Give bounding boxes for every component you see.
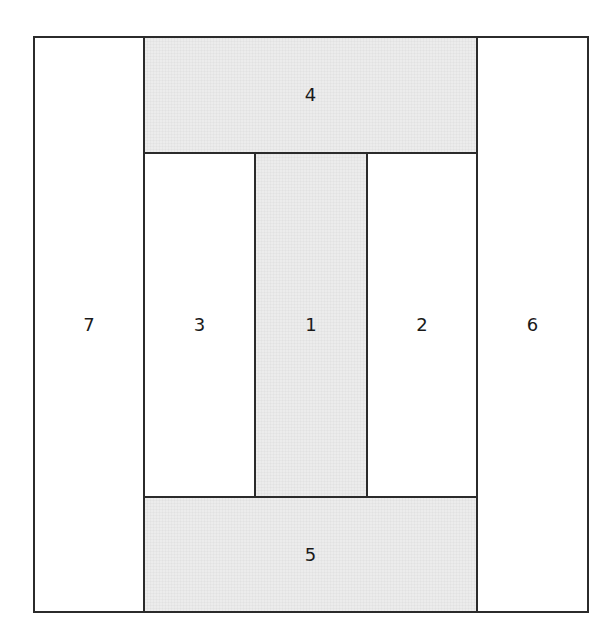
piece-4-label: 4 (305, 86, 316, 104)
divider-center-right (366, 152, 368, 498)
piece-1-label: 1 (305, 316, 316, 334)
divider-top-strip (143, 152, 478, 154)
quilt-block-diagram: 7 6 4 5 3 1 2 (0, 0, 615, 636)
piece-1: 1 (255, 153, 367, 497)
outer-border-top (33, 36, 589, 38)
divider-right-column (476, 36, 478, 613)
outer-border-left (33, 36, 35, 613)
piece-7: 7 (34, 37, 144, 612)
divider-center-left (254, 152, 256, 498)
piece-4: 4 (144, 37, 477, 153)
piece-5: 5 (144, 497, 477, 612)
piece-3: 3 (144, 153, 255, 497)
piece-5-label: 5 (305, 546, 316, 564)
piece-7-label: 7 (83, 316, 94, 334)
piece-6: 6 (477, 37, 588, 612)
outer-border-right (587, 36, 589, 613)
piece-6-label: 6 (527, 316, 538, 334)
piece-2-label: 2 (416, 316, 427, 334)
piece-3-label: 3 (194, 316, 205, 334)
piece-2: 2 (367, 153, 477, 497)
outer-border-bottom (33, 611, 589, 613)
divider-left-column (143, 36, 145, 613)
divider-bottom-strip (143, 496, 478, 498)
